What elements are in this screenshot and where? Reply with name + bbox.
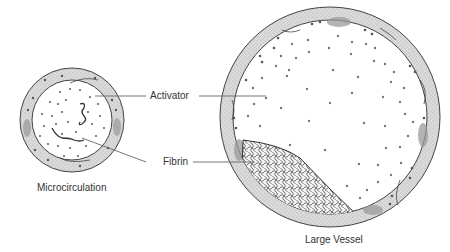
endothelial-nucleus-icon [113,118,121,136]
endothelial-nucleus-icon [327,17,351,27]
microcirculation-caption: Microcirculation [35,182,108,194]
large-vessel [220,7,440,230]
fibrin-label: Fibrin [161,156,190,168]
large-vessel-caption: Large Vessel [303,234,365,246]
endothelial-nucleus-icon [418,123,428,147]
endothelial-nucleus-icon [363,205,383,215]
diagram-canvas [0,0,450,252]
activator-label: Activator [148,90,191,102]
microcirculation-vessel [20,68,124,172]
endothelial-nucleus-icon [23,119,31,137]
